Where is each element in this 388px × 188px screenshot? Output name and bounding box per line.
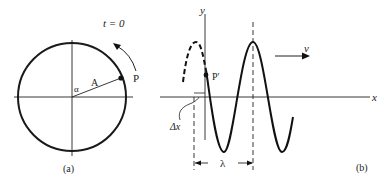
delta-x-label: Δx [169, 121, 181, 132]
caption-b: (b) [356, 162, 368, 174]
rotation-arrow-arc [117, 46, 136, 71]
delta-x-leader [179, 97, 199, 120]
rotation-arrowhead-icon [113, 43, 121, 50]
lambda-arrowhead-right-icon [247, 161, 253, 166]
point-p [118, 75, 123, 80]
angle-label: α [74, 84, 79, 94]
velocity-label: v [304, 42, 309, 54]
panel-a [14, 40, 136, 156]
wave-dashed-segment [183, 42, 206, 82]
x-axis-label: x [371, 91, 377, 103]
y-axis-label: y [199, 4, 205, 16]
point-p-label: P [133, 72, 139, 84]
panel-b [160, 14, 370, 170]
wavelength-label: λ [220, 157, 226, 169]
time-label: t = 0 [103, 17, 125, 29]
point-p-prime-label: P′ [212, 71, 220, 82]
lambda-arrowhead-left-icon [195, 161, 201, 166]
caption-a: (a) [63, 163, 74, 175]
figure: t = 0 A α P (a) y x v P′ Δx λ (b) [0, 0, 388, 188]
radius-label: A [91, 77, 99, 88]
point-p-prime [204, 73, 209, 78]
